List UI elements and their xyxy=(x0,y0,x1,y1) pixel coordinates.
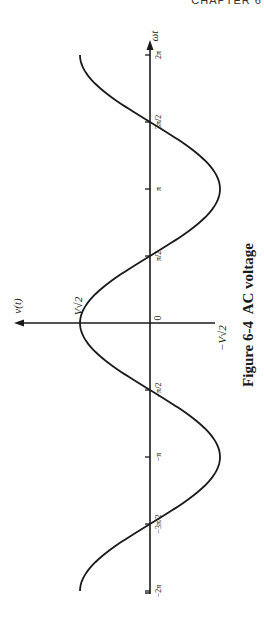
v-axis-arrow-icon xyxy=(14,320,24,327)
omega-t-tick-label: 2π xyxy=(154,51,163,59)
omega-t-axis-label: ωt xyxy=(148,30,160,42)
trough-label: −V√2 xyxy=(216,325,228,351)
origin-label: 0 xyxy=(152,316,163,321)
omega-t-tick-label: −π xyxy=(154,453,163,462)
omega-t-ticks: −2π−3π/2−π−π/2π/2π3π/22π xyxy=(145,51,163,597)
figure-caption: Figure 6-4 AC voltage xyxy=(240,243,256,387)
ac-voltage-figure: ωt v(t) V√2 −V√2 0 −2π−3π/2−π−π/2π/2π3π/… xyxy=(0,0,264,625)
v-axis-label: v(t) xyxy=(11,298,24,314)
omega-t-tick-label: π xyxy=(154,187,163,191)
omega-t-tick-label: −2π xyxy=(154,585,163,598)
